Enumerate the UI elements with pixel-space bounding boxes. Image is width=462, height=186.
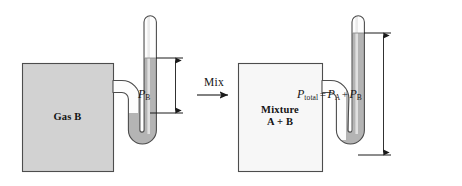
pressure-total-label: Ptotal=PA+PB [297, 88, 362, 101]
mix-label: Mix [197, 76, 231, 89]
pressure-b2-subscript: B [357, 93, 362, 102]
pressure-plus-sign: + [340, 88, 349, 100]
right-tube-highlight [355, 16, 358, 134]
pressure-b-subscript: B [145, 93, 150, 102]
mixture-label: Mixture A + B [238, 104, 322, 128]
left-mercury-fill [108, 58, 168, 186]
gas-b-label-text: Gas B [53, 111, 81, 122]
left-tube-highlight [147, 16, 150, 134]
mixture-label-line1: Mixture [238, 104, 322, 116]
figure-canvas [0, 0, 462, 186]
gas-b-label: Gas B [22, 111, 113, 123]
pressure-b-label: PB [138, 88, 150, 101]
manometer-figure: Gas B PB Mix Mixture A + B Ptotal=PA+PB [0, 0, 462, 186]
pressure-b2-symbol: P [350, 87, 357, 101]
mix-label-text: Mix [204, 76, 224, 88]
mixture-label-line2: A + B [238, 116, 322, 128]
pressure-a-subscript: A [335, 93, 341, 102]
left-panel-group [23, 16, 184, 186]
pressure-total-subscript: total [304, 93, 318, 102]
pressure-a-symbol: P [327, 87, 334, 101]
